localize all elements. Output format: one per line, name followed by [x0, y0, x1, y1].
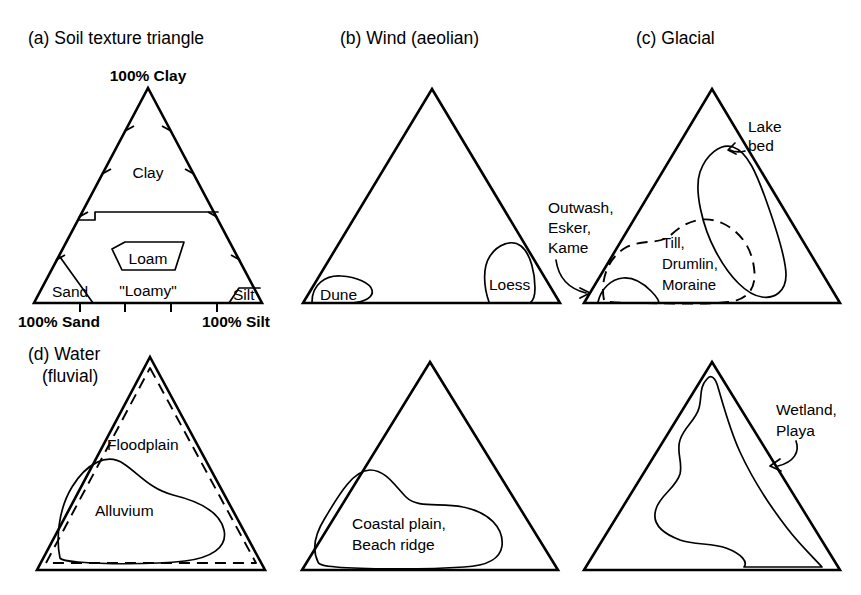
- panel-c-label-lakebed-1: Lake: [748, 118, 782, 135]
- panel-a-left-axis-label: 100% Sand: [18, 313, 100, 330]
- panel-f-label-wetland-1: Wetland,: [776, 401, 837, 418]
- panel-d-title-line1: (d) Water: [28, 344, 100, 364]
- panel-d-label-floodplain: Floodplain: [107, 436, 179, 453]
- panel-c: (c) Glacial Till, Drumlin, Moraine Lake …: [548, 28, 840, 304]
- panel-d-title-line2: (fluvial): [42, 366, 98, 386]
- panel-a-label-sand: Sand: [52, 283, 88, 300]
- panel-a-right-axis-label: 100% Silt: [202, 313, 270, 330]
- panel-a-ticks-bottom: [80, 303, 217, 312]
- panel-a-title: (a) Soil texture triangle: [28, 28, 204, 48]
- panel-b-label-dune: Dune: [320, 286, 357, 303]
- panel-d-triangle: [37, 357, 265, 570]
- panel-c-label-till-1: Till,: [662, 234, 685, 251]
- panel-c-label-outwash-3: Kame: [548, 239, 589, 256]
- panel-c-label-outwash-1: Outwash,: [548, 199, 613, 216]
- panel-b-title: (b) Wind (aeolian): [340, 28, 479, 48]
- figure-root: (a) Soil texture triangle 100% Clay: [0, 0, 861, 595]
- panel-f-triangle: [584, 362, 840, 570]
- panel-b-loess-region: [485, 243, 535, 303]
- panel-a-clay-boundary: [78, 212, 218, 220]
- panel-c-label-outwash-2: Esker,: [548, 219, 591, 236]
- panel-a-apex-label: 100% Clay: [110, 67, 187, 84]
- panel-c-title: (c) Glacial: [636, 28, 715, 48]
- panel-f: Wetland, Playa: [584, 362, 840, 570]
- panel-b-label-loess: Loess: [489, 276, 531, 293]
- panel-a-label-silt: Silt: [233, 286, 255, 303]
- panel-e: Coastal plain, Beach ridge: [302, 362, 558, 570]
- panel-a-label-loamy: "Loamy": [119, 282, 177, 299]
- panel-a-label-loam: Loam: [129, 250, 168, 267]
- panel-e-label-coastal-2: Beach ridge: [352, 536, 435, 553]
- panel-f-wetland-leader: [778, 441, 797, 466]
- panel-c-label-till-3: Moraine: [662, 276, 716, 293]
- soil-texture-figure: (a) Soil texture triangle 100% Clay: [0, 0, 861, 595]
- panel-a-label-clay: Clay: [132, 164, 163, 181]
- panel-c-label-lakebed-2: bed: [748, 137, 774, 154]
- panel-d-label-alluvium: Alluvium: [95, 502, 154, 519]
- panel-d: (d) Water (fluvial) Floodplain Alluvium: [28, 344, 265, 570]
- panel-b-triangle: [303, 89, 560, 303]
- panel-c-outwash-region: [598, 278, 659, 303]
- panel-a: (a) Soil texture triangle 100% Clay: [18, 28, 270, 330]
- panel-c-label-till-2: Drumlin,: [662, 255, 718, 272]
- panel-e-label-coastal-1: Coastal plain,: [352, 515, 446, 532]
- panel-c-lake-bed-region: [698, 146, 786, 297]
- panel-b: (b) Wind (aeolian) Dune Loess: [303, 28, 560, 303]
- panel-f-label-wetland-2: Playa: [776, 422, 815, 439]
